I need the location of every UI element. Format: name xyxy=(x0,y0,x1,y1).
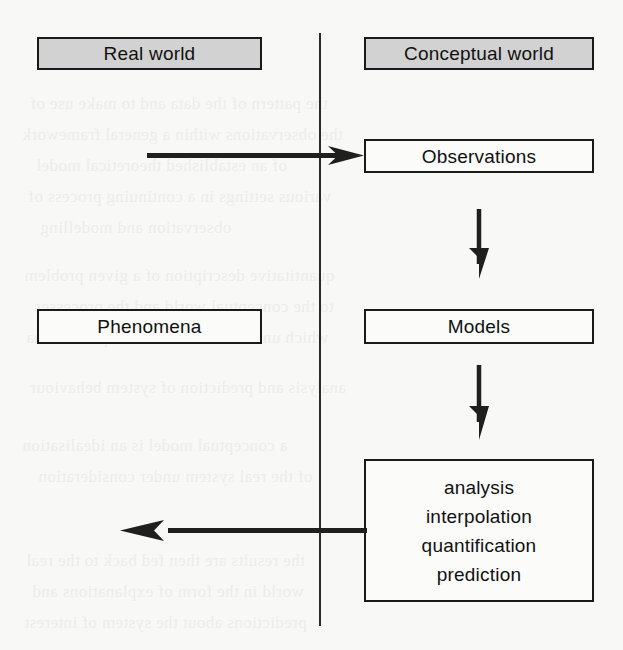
node-operations-line-1: analysis xyxy=(444,473,514,502)
edge-models-to-operations xyxy=(467,364,491,442)
arrow-head-down xyxy=(469,406,489,440)
node-observations-label: Observations xyxy=(422,144,536,169)
node-models[interactable]: Models xyxy=(364,309,594,344)
diagram-page: the pattern of the data and to make use … xyxy=(0,0,623,650)
edge-observations-to-models xyxy=(467,208,491,280)
flow-diagram: Real world Conceptual world Observations… xyxy=(0,0,623,650)
arrow-head-left xyxy=(120,520,164,541)
node-phenomena[interactable]: Phenomena xyxy=(37,309,262,344)
node-models-label: Models xyxy=(448,314,510,339)
node-observations[interactable]: Observations xyxy=(364,139,594,173)
edge-real-world-to-observations xyxy=(146,144,366,168)
node-conceptual-world[interactable]: Conceptual world xyxy=(364,37,594,70)
edge-operations-to-real-world xyxy=(118,519,368,543)
node-real-world[interactable]: Real world xyxy=(37,37,262,70)
node-operations[interactable]: analysis interpolation quantification pr… xyxy=(364,459,594,602)
node-operations-line-4: prediction xyxy=(437,560,521,589)
node-operations-line-3: quantification xyxy=(422,531,537,560)
arrow-head-down xyxy=(469,248,489,279)
node-operations-line-2: interpolation xyxy=(426,502,532,531)
node-real-world-label: Real world xyxy=(104,41,196,66)
node-conceptual-world-label: Conceptual world xyxy=(404,41,554,66)
node-phenomena-label: Phenomena xyxy=(97,314,201,339)
